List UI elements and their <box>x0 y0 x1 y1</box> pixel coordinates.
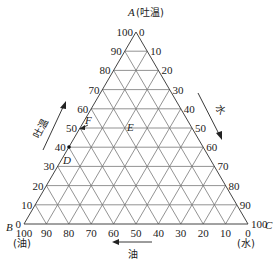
bottom-tick-label: 60 <box>108 227 120 239</box>
left-tick-label: 90 <box>111 45 123 57</box>
left-tick-label: 70 <box>88 84 100 96</box>
left-tick-label: 20 <box>32 180 44 192</box>
grid-lines <box>35 51 237 224</box>
right-tick-label: 10 <box>150 45 162 57</box>
right-tick-label: 40 <box>184 103 196 115</box>
bottom-axis-ticks: 1009080706050403020100 <box>16 227 252 239</box>
arrow-head-icon <box>216 131 222 140</box>
vertex-c-component: (水) <box>237 238 255 249</box>
bottom-tick-label: 30 <box>175 227 187 239</box>
right-tick-label: 70 <box>217 160 229 172</box>
left-tick-label: 50 <box>66 122 78 134</box>
right-tick-label: 50 <box>195 122 207 134</box>
bottom-tick-label: 70 <box>86 227 98 239</box>
bottom-tick-label: 90 <box>41 227 53 239</box>
left-tick-label: 80 <box>100 64 112 76</box>
vertex-a-letter: A <box>127 6 135 18</box>
vertex-b-letter: B <box>6 221 13 233</box>
left-tick-label: 100 <box>117 26 134 38</box>
vertex-b-component: (油) <box>13 237 31 249</box>
left-tick-label: 10 <box>21 199 33 211</box>
point-e-label: E <box>126 121 134 133</box>
right-tick-label: 90 <box>240 199 252 211</box>
bottom-tick-label: 50 <box>131 227 143 239</box>
bottom-tick-label: 80 <box>63 227 75 239</box>
right-tick-label: 80 <box>229 180 241 192</box>
bottom-tick-label: 20 <box>198 227 210 239</box>
point-d-label: D <box>62 154 71 166</box>
right-tick-label: 60 <box>206 141 218 153</box>
left-tick-label: 30 <box>44 160 56 172</box>
right-tick-label: 20 <box>161 64 173 76</box>
arrow-head-icon <box>60 101 66 109</box>
bottom-tick-label: 40 <box>153 227 165 239</box>
right-axis-label: 水 <box>213 102 228 116</box>
bottom-tick-label: 10 <box>220 227 232 239</box>
vertex-c-letter: C <box>265 219 273 231</box>
bottom-axis-arrow <box>112 239 152 245</box>
bottom-axis-label: 油 <box>128 248 138 260</box>
vertex-a-component: (吐温) <box>136 7 164 18</box>
left-tick-label: 40 <box>55 141 67 153</box>
right-tick-label: 30 <box>173 84 185 96</box>
left-tick-label: 60 <box>77 103 89 115</box>
point-f-label: F <box>84 114 92 126</box>
arrow-head-icon <box>112 239 119 245</box>
ternary-diagram: 0102030405060708090100 01020304050607080… <box>0 0 280 268</box>
left-axis-label: 吐温 <box>31 117 50 140</box>
right-tick-label: 0 <box>139 26 145 38</box>
point-d-marker <box>67 145 71 149</box>
